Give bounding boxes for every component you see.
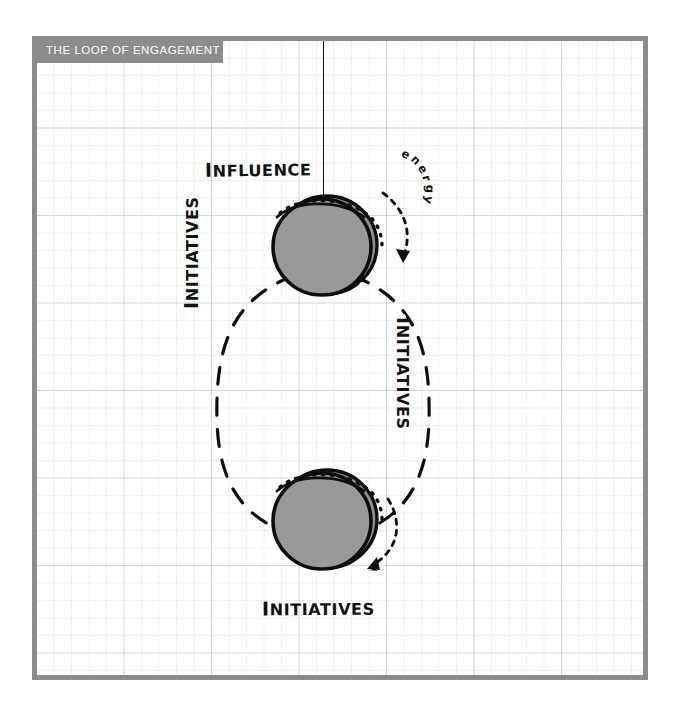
energy-letter: g — [423, 185, 437, 193]
label-initiatives-left: INITIATIVES — [180, 196, 202, 309]
label-influence: INFLUENCE — [205, 157, 312, 180]
loop-diagram — [37, 41, 643, 675]
label-initiatives-right: INITIATIVES — [393, 317, 415, 430]
node-initiatives[interactable] — [273, 470, 382, 569]
title-band: THE LOOP OF ENGAGEMENT — [32, 36, 223, 63]
label-energy: energy — [382, 181, 442, 241]
diagram-frame: THE LOOP OF ENGAGEMENT — [32, 36, 648, 680]
screenshot-canvas: THE LOOP OF ENGAGEMENT — [0, 0, 675, 714]
stem-line — [323, 41, 324, 211]
label-initiatives-bottom: INITIATIVES — [262, 597, 375, 620]
energy-letter: y — [421, 194, 437, 205]
page-title: THE LOOP OF ENGAGEMENT — [46, 44, 220, 56]
